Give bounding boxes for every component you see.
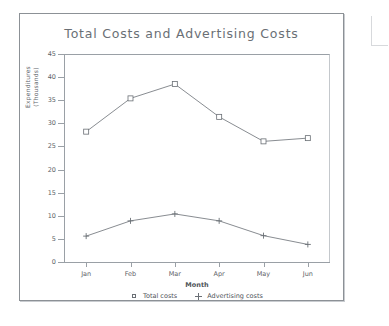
y-tick	[58, 146, 64, 147]
legend-label: Total costs	[143, 292, 177, 300]
y-axis-title: Expenditures (Thousands)	[24, 42, 39, 132]
x-axis-line	[64, 262, 330, 263]
y-tick-label: 25	[16, 142, 56, 150]
y-tick-label: 10	[16, 212, 56, 220]
y-tick-label: 15	[16, 189, 56, 197]
plus-marker-icon	[195, 293, 202, 300]
legend-label: Advertising costs	[207, 292, 263, 300]
y-tick-label: 20	[16, 166, 56, 174]
x-tick-label: May	[239, 270, 289, 278]
chart-title: Total Costs and Advertising Costs	[19, 26, 344, 41]
x-tick	[264, 262, 265, 267]
square-marker-icon	[131, 293, 138, 300]
y-tick	[58, 216, 64, 217]
x-tick	[308, 262, 309, 267]
y-tick	[58, 239, 64, 240]
x-tick	[219, 262, 220, 267]
legend-entry: Total costs	[131, 292, 177, 300]
y-tick	[58, 193, 64, 194]
page-edge-artifact	[371, 16, 388, 46]
plot-area	[64, 54, 330, 262]
x-axis-title: Month	[64, 281, 330, 289]
y-tick	[58, 262, 64, 263]
x-tick	[175, 262, 176, 267]
x-tick-label: Apr	[194, 270, 244, 278]
y-tick-label: 5	[16, 235, 56, 243]
y-tick	[58, 170, 64, 171]
y-tick	[58, 123, 64, 124]
x-tick-label: Feb	[106, 270, 156, 278]
x-tick-label: Jan	[61, 270, 111, 278]
chart-screenshot: Total Costs and Advertising Costs 051015…	[0, 0, 389, 326]
y-tick	[58, 77, 64, 78]
x-tick	[86, 262, 87, 267]
chart-legend: Total costsAdvertising costs	[64, 292, 330, 300]
y-tick-label: 0	[16, 258, 56, 266]
x-tick-label: Jun	[283, 270, 333, 278]
x-tick	[131, 262, 132, 267]
y-tick	[58, 54, 64, 55]
y-tick	[58, 100, 64, 101]
legend-entry: Advertising costs	[195, 292, 263, 300]
x-tick-label: Mar	[150, 270, 200, 278]
